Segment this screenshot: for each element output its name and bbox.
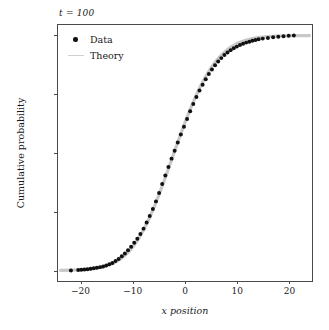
data-point (126, 248, 130, 252)
x-axis-label: x position (57, 305, 313, 316)
data-point (173, 149, 177, 153)
data-point (182, 125, 186, 129)
series-line (61, 36, 310, 271)
data-point (188, 109, 192, 113)
data-point (142, 227, 146, 231)
data-point (120, 254, 124, 258)
data-point (219, 56, 223, 60)
data-point (276, 35, 280, 39)
data-point (216, 59, 220, 63)
data-point (198, 89, 202, 93)
data-point (69, 268, 73, 272)
data-point (179, 132, 183, 136)
data-point (191, 102, 195, 106)
legend: Data Theory (66, 33, 124, 61)
theory-series (61, 36, 310, 271)
data-point (163, 174, 167, 178)
data-point (166, 165, 170, 169)
data-point (210, 67, 214, 71)
data-point (157, 191, 161, 195)
data-point (282, 34, 286, 38)
data-point (194, 95, 198, 99)
chart-title: t = 100 (59, 8, 94, 18)
legend-item-theory[interactable]: Theory (66, 49, 124, 61)
data-point (176, 140, 180, 144)
data-point (145, 221, 149, 225)
line-swatch-icon (66, 49, 86, 61)
x-tick-label: 20 (284, 286, 295, 296)
data-point (151, 207, 155, 211)
data-point (170, 157, 174, 161)
plot-svg (58, 25, 312, 281)
data-point (204, 77, 208, 81)
data-series (69, 34, 296, 273)
data-point (287, 34, 291, 38)
data-point (266, 36, 270, 40)
legend-label-data: Data (90, 34, 113, 45)
data-point (222, 53, 226, 57)
data-point (261, 37, 265, 41)
data-point (123, 252, 127, 256)
data-point (201, 83, 205, 87)
data-point (129, 245, 133, 249)
plot-area (57, 24, 313, 282)
data-point (132, 241, 136, 245)
data-point (135, 237, 139, 241)
x-axis-label-text: x position (162, 305, 209, 316)
figure-canvas: t = 100 Cumulative probability x positio… (0, 0, 329, 330)
x-tick-label: −10 (123, 286, 142, 296)
data-point (271, 35, 275, 39)
data-point (138, 232, 142, 236)
data-point (185, 117, 189, 121)
x-tick-label: 0 (182, 286, 188, 296)
legend-label-theory: Theory (90, 50, 124, 61)
x-tick-label: −20 (71, 286, 90, 296)
data-point (207, 72, 211, 76)
data-point (257, 37, 261, 41)
data-point (213, 63, 217, 67)
legend-item-data[interactable]: Data (66, 33, 124, 45)
data-point (154, 199, 158, 203)
data-point (148, 214, 152, 218)
data-point (160, 182, 164, 186)
data-point (292, 34, 296, 38)
data-point (117, 257, 121, 261)
y-axis-label: Cumulative probability (14, 24, 28, 282)
x-tick-label: 10 (232, 286, 243, 296)
filled-circle-marker-icon (66, 33, 86, 45)
